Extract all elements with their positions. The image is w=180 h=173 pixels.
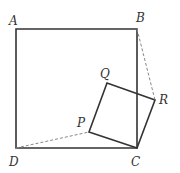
dashed-segment-br <box>137 29 155 100</box>
vertex-label-c: C <box>131 155 140 169</box>
geometry-diagram: A B C D P Q R <box>0 0 180 173</box>
vertex-label-a: A <box>8 14 18 28</box>
large-square-abcd <box>16 29 137 148</box>
small-square-pqrc <box>89 83 155 148</box>
vertex-label-b: B <box>135 11 145 25</box>
vertex-label-p: P <box>76 116 86 130</box>
vertex-label-q: Q <box>100 67 110 81</box>
dashed-segment-dp <box>16 132 89 148</box>
vertex-label-r: R <box>158 93 168 107</box>
vertex-label-d: D <box>8 155 19 169</box>
